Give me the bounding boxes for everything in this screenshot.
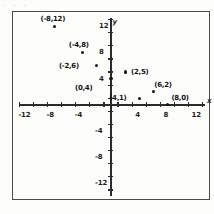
- x-tick-label: -8: [47, 111, 54, 119]
- data-point: [152, 90, 155, 93]
- x-tick: [103, 102, 104, 107]
- coordinate-plane: x y -12-8-448121284-4-8-12 (-8,12)(-4,8)…: [13, 12, 209, 199]
- data-point-label: (2,5): [131, 68, 148, 76]
- data-point-label: (0,4): [75, 84, 92, 92]
- x-tick-label: 12: [192, 111, 201, 119]
- y-tick-label: -4: [95, 127, 102, 135]
- y-tick: [108, 71, 113, 72]
- x-tick-label: -12: [18, 111, 30, 119]
- y-tick: [108, 32, 113, 33]
- x-tick-label: 8: [163, 111, 168, 119]
- x-axis-label: x: [207, 97, 212, 105]
- y-tick: [108, 163, 113, 164]
- scan-artifact-text: . . .: [4, 0, 124, 7]
- x-tick: [47, 102, 48, 107]
- y-tick-label: -12: [95, 179, 107, 187]
- plot-frame: x y -12-8-448121284-4-8-12 (-8,12)(-4,8)…: [12, 11, 210, 200]
- x-tick: [174, 102, 175, 107]
- y-tick-label: 4: [99, 75, 104, 83]
- y-tick: [108, 85, 113, 86]
- x-tick-label: 4: [135, 111, 140, 119]
- data-point-label: (-2,6): [59, 62, 79, 70]
- y-tick: [108, 124, 113, 125]
- x-tick: [117, 102, 118, 107]
- x-tick: [160, 102, 161, 107]
- data-point: [53, 25, 56, 28]
- x-tick: [61, 102, 62, 107]
- data-point-label: (8,0): [171, 94, 188, 102]
- data-point: [81, 51, 84, 54]
- data-point: [138, 97, 141, 100]
- x-tick: [202, 102, 203, 107]
- y-tick: [108, 58, 113, 59]
- y-tick: [108, 111, 113, 112]
- y-tick-label: 12: [99, 22, 108, 30]
- x-tick: [75, 102, 76, 107]
- x-tick-label: -4: [75, 111, 82, 119]
- data-point-label: (-4,8): [69, 41, 89, 49]
- y-tick: [108, 19, 113, 20]
- data-point: [166, 103, 169, 106]
- data-point: [109, 77, 112, 80]
- y-tick: [108, 189, 113, 190]
- x-tick: [132, 102, 133, 107]
- y-tick: [108, 176, 113, 177]
- data-point-label: (-8,12): [41, 15, 65, 23]
- y-tick: [108, 45, 113, 46]
- data-point: [95, 64, 98, 67]
- figure-page: . . . x y -12-8-448121284-4-8-12 (-8,12)…: [0, 0, 214, 214]
- x-tick: [146, 102, 147, 107]
- x-tick: [19, 102, 20, 107]
- y-tick-label: -8: [95, 153, 102, 161]
- x-tick: [33, 102, 34, 107]
- data-point-label: (4,1): [109, 94, 126, 102]
- x-tick: [89, 102, 90, 107]
- x-tick: [188, 102, 189, 107]
- data-point-label: (6,2): [154, 81, 171, 89]
- y-tick: [108, 137, 113, 138]
- data-point: [124, 70, 127, 73]
- y-tick-label: 8: [99, 48, 104, 56]
- y-tick: [108, 150, 113, 151]
